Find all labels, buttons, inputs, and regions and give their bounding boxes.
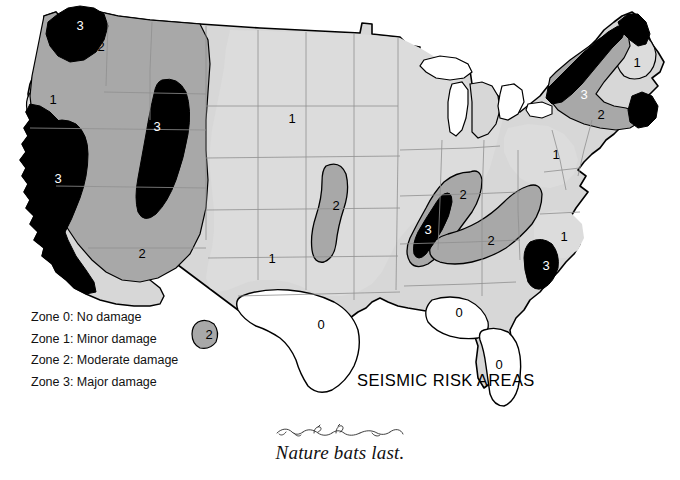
legend-item-zone2: Zone 2: Moderate damage	[31, 350, 261, 372]
legend-item-zone3: Zone 3: Major damage	[31, 372, 261, 394]
legend: Zone 0: No damage Zone 1: Minor damage Z…	[31, 307, 261, 393]
zone-label-new-england: 2	[597, 107, 604, 122]
zone-label-southern-appalachian: 2	[487, 233, 494, 248]
zone-label-carolinas: 1	[560, 229, 567, 244]
decorative-flourish-icon	[274, 424, 406, 440]
caption-block: Nature bats last.	[0, 424, 680, 464]
zone-label-new-madrid-core: 3	[424, 222, 431, 237]
zone3-charleston-sc	[524, 239, 558, 289]
zone-label-coastal-massachusetts: 3	[641, 103, 648, 118]
zone-label-california-coast: 3	[54, 171, 61, 186]
map-title: SEISMIC RISK AREAS	[357, 371, 535, 390]
zone-label-maine: 1	[633, 55, 640, 70]
zone-label-central-plains-band: 2	[332, 198, 339, 213]
zone-label-gulf-coast: 0	[455, 305, 462, 320]
zone-label-charleston-sc: 3	[542, 258, 549, 273]
seismic-risk-map-page: 32133212120232003113231 Zone 0: No damag…	[0, 0, 680, 480]
legend-item-zone0: Zone 0: No damage	[31, 307, 261, 329]
zone-label-new-madrid-outer: 2	[459, 187, 466, 202]
zone-label-puget-sound: 3	[76, 18, 83, 33]
lake-ontario	[526, 102, 552, 118]
legend-item-zone1: Zone 1: Minor damage	[31, 329, 261, 351]
zone-label-northern-plains: 1	[288, 111, 295, 126]
zone-label-southwest: 2	[138, 246, 145, 261]
zone-label-new-england-border: 3	[580, 87, 587, 102]
zone-label-nevada-utah-belt: 3	[153, 119, 160, 134]
zone-label-ohio-valley: 1	[552, 147, 559, 162]
caption-text: Nature bats last.	[0, 442, 680, 464]
zone-label-southern-plains: 1	[268, 251, 275, 266]
zone-label-pacific-northwest: 2	[97, 39, 104, 54]
zone-label-idaho-snake-river: 1	[49, 92, 56, 107]
us-seismic-map: 32133212120232003113231	[0, 0, 680, 480]
zone-label-texas: 0	[317, 317, 324, 332]
